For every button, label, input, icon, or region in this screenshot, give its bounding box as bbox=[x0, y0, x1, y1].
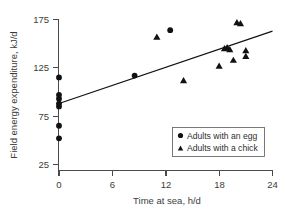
y-axis-title: Field energy expenditure, kJ/d bbox=[8, 31, 19, 158]
y-tick-label-25: 25 bbox=[38, 159, 49, 170]
x-tick-label-6: 6 bbox=[110, 179, 115, 190]
chart-figure: 175 125 75 25 0 6 12 18 24 Time at sea, … bbox=[0, 0, 287, 213]
x-axis-ticks bbox=[59, 171, 273, 177]
x-tick-label-18: 18 bbox=[214, 179, 225, 190]
data-point bbox=[56, 104, 62, 110]
data-point bbox=[216, 62, 223, 68]
y-tick-label-175: 175 bbox=[33, 14, 49, 25]
x-tick-label-12: 12 bbox=[161, 179, 172, 190]
data-point bbox=[180, 77, 187, 83]
y-axis-ticks bbox=[53, 20, 59, 165]
x-tick-label-0: 0 bbox=[56, 179, 61, 190]
x-axis-title: Time at sea, h/d bbox=[133, 195, 201, 206]
y-axis-tick-labels: 175 125 75 25 bbox=[33, 14, 49, 170]
regression-line bbox=[59, 31, 273, 103]
data-point bbox=[132, 73, 138, 79]
y-tick-label-125: 125 bbox=[33, 62, 49, 73]
legend-label-egg: Adults with an egg bbox=[187, 131, 257, 141]
legend-label-chick: Adults with a chick bbox=[187, 143, 258, 153]
data-point bbox=[56, 123, 62, 129]
data-point bbox=[242, 47, 249, 53]
x-axis-tick-labels: 0 6 12 18 24 bbox=[56, 179, 277, 190]
chart-legend[interactable]: Adults with an egg Adults with a chick bbox=[173, 128, 265, 157]
y-tick-label-75: 75 bbox=[38, 111, 49, 122]
legend-circle-icon bbox=[178, 133, 183, 138]
data-point bbox=[242, 53, 249, 59]
x-tick-label-24: 24 bbox=[267, 179, 278, 190]
data-point bbox=[56, 135, 62, 141]
data-point bbox=[56, 75, 62, 81]
data-point bbox=[230, 57, 237, 63]
scatter-plot: 175 125 75 25 0 6 12 18 24 Time at sea, … bbox=[0, 0, 287, 213]
data-point bbox=[153, 33, 160, 39]
series-adults-with-a-chick bbox=[153, 19, 249, 83]
data-point bbox=[167, 27, 173, 33]
